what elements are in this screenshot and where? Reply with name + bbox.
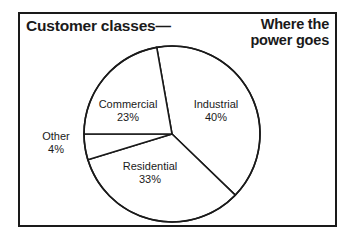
- pie-label-commercial-name: Commercial: [89, 98, 167, 111]
- pie-label-residential-value: 33%: [110, 173, 190, 186]
- pie-label-residential: Residential 33%: [110, 160, 190, 186]
- pie-label-industrial-name: Industrial: [180, 98, 252, 111]
- pie-label-other-name: Other: [28, 130, 84, 143]
- figure-root: Customer classes— Where the power goes I…: [0, 0, 355, 240]
- pie-label-other: Other 4%: [28, 130, 84, 156]
- pie-label-industrial: Industrial 40%: [180, 98, 252, 124]
- pie-label-other-value: 4%: [28, 143, 84, 156]
- pie-slice-group: [84, 46, 260, 222]
- pie-chart: [0, 0, 355, 240]
- pie-label-commercial: Commercial 23%: [89, 98, 167, 124]
- pie-label-residential-name: Residential: [110, 160, 190, 173]
- pie-label-commercial-value: 23%: [89, 111, 167, 124]
- pie-label-industrial-value: 40%: [180, 111, 252, 124]
